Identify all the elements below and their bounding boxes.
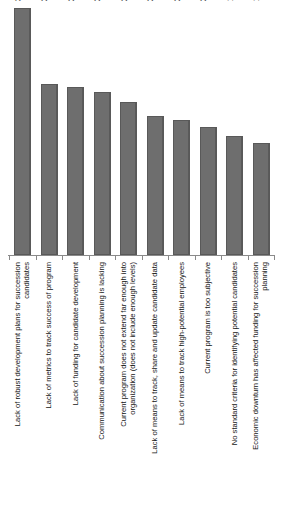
bar-value-label: 25.4% xyxy=(93,0,102,1)
category-label: No standard criteria for identifying pot… xyxy=(231,262,240,445)
axis-tick xyxy=(200,255,217,260)
plot-area: 38.5%26.7%26.2%25.4%23.8%21.6%21.1%20.0%… xyxy=(14,8,270,255)
axis-tick xyxy=(147,255,164,260)
axis-tick xyxy=(226,255,243,260)
bar xyxy=(226,136,243,255)
bar-column: 23.8% xyxy=(120,8,137,255)
bar-column: 17.4% xyxy=(253,8,270,255)
axis-tick xyxy=(67,255,84,260)
bar-column: 21.1% xyxy=(173,8,190,255)
bar-value-label: 38.5% xyxy=(14,0,23,1)
category-labels: Lack of robust development plans for suc… xyxy=(14,262,270,512)
axis-tick xyxy=(14,255,31,260)
category-label: Current program is too subjective xyxy=(204,262,213,374)
category-label: Lack of metrics to track success of prog… xyxy=(45,262,54,408)
bar-value-label: 23.8% xyxy=(120,0,129,1)
bar xyxy=(41,84,58,255)
category-label-slot: Economic downturn has affected funding f… xyxy=(253,262,270,512)
category-label: Lack of funding for candidate developmen… xyxy=(71,262,80,405)
category-label-slot: Lack of means to track high-potential em… xyxy=(173,262,190,512)
bar-column: 25.4% xyxy=(94,8,111,255)
bar-column: 21.6% xyxy=(147,8,164,255)
axis-tick xyxy=(173,255,190,260)
category-label-slot: Lack of means to track, share and update… xyxy=(147,262,164,512)
bar-value-label: 21.1% xyxy=(173,0,182,1)
bar xyxy=(200,127,217,255)
category-label-slot: Lack of metrics to track success of prog… xyxy=(41,262,58,512)
category-label: Current program does not extend far enou… xyxy=(120,262,137,427)
category-label: Economic downturn has affected funding f… xyxy=(253,262,270,450)
axis-tick xyxy=(120,255,137,260)
category-label-slot: No standard criteria for identifying pot… xyxy=(226,262,243,512)
bar-column: 20.0% xyxy=(200,8,217,255)
bar xyxy=(14,8,31,255)
category-label-slot: Lack of funding for candidate developmen… xyxy=(67,262,84,512)
category-label-slot: Lack of robust development plans for suc… xyxy=(14,262,31,512)
category-label: Lack of means to track high-potential em… xyxy=(177,262,186,425)
axis-tick xyxy=(41,255,58,260)
bar-value-label: 18.6% xyxy=(226,0,235,1)
axis-tick xyxy=(94,255,111,260)
bar-column: 26.7% xyxy=(41,8,58,255)
bar-value-label: 20.0% xyxy=(199,0,208,1)
bar xyxy=(94,92,111,255)
category-label-slot: Communication about succession planning … xyxy=(94,262,111,512)
bar-value-label: 17.4% xyxy=(252,0,261,1)
bar-column: 26.2% xyxy=(67,8,84,255)
bar-chart: 38.5%26.7%26.2%25.4%23.8%21.6%21.1%20.0%… xyxy=(0,0,282,519)
category-label-slot: Current program does not extend far enou… xyxy=(120,262,137,512)
bar-value-label: 26.7% xyxy=(40,0,49,1)
bar-series: 38.5%26.7%26.2%25.4%23.8%21.6%21.1%20.0%… xyxy=(14,8,270,255)
bar-column: 18.6% xyxy=(226,8,243,255)
bar xyxy=(147,116,164,255)
bar xyxy=(253,143,270,255)
category-label: Lack of robust development plans for suc… xyxy=(14,262,31,426)
axis-tick xyxy=(253,255,270,260)
category-label: Lack of means to track, share and update… xyxy=(151,262,160,454)
bar xyxy=(120,102,137,255)
category-label: Communication about succession planning … xyxy=(98,262,107,440)
x-axis-ticks xyxy=(14,255,270,260)
bar xyxy=(173,120,190,255)
bar-value-label: 26.2% xyxy=(67,0,76,1)
category-label-slot: Current program is too subjective xyxy=(200,262,217,512)
bar-column: 38.5% xyxy=(14,8,31,255)
bar xyxy=(67,87,84,255)
bar-value-label: 21.6% xyxy=(146,0,155,1)
